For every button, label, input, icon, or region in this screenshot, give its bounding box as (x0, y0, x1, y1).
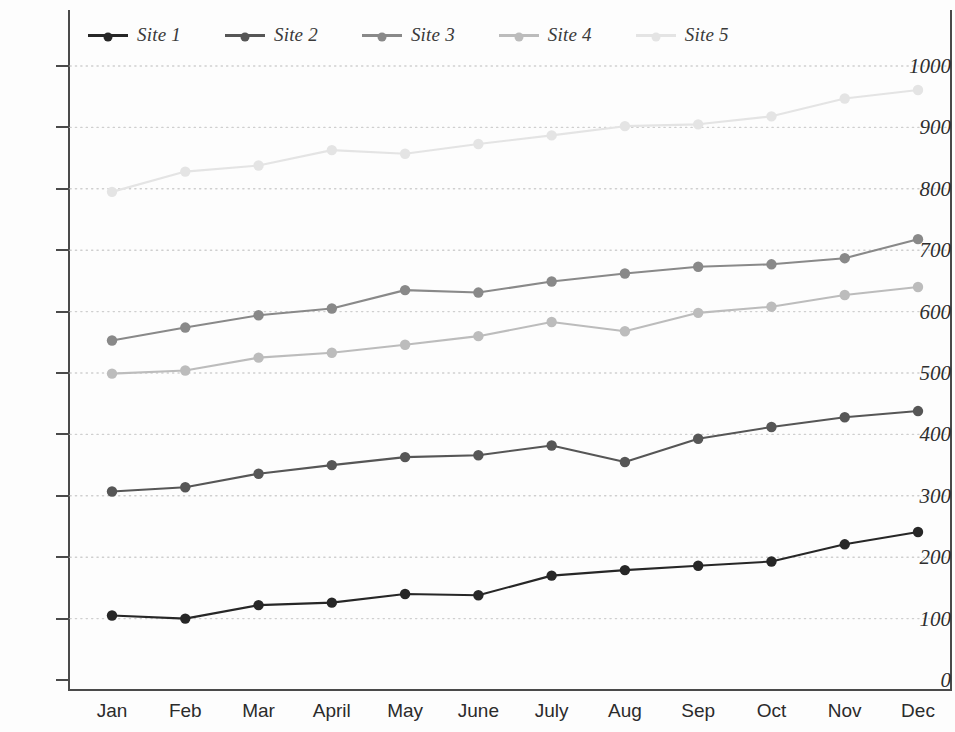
series-line (112, 287, 918, 374)
data-point-marker[interactable] (766, 259, 776, 269)
y-axis-tick-label: 900 (893, 115, 955, 140)
data-point-marker[interactable] (400, 149, 410, 159)
data-point-marker[interactable] (546, 440, 556, 450)
y-axis-tick-mark (56, 126, 68, 128)
data-point-marker[interactable] (840, 290, 850, 300)
x-axis-tick-label: Aug (608, 700, 642, 722)
data-point-marker[interactable] (546, 276, 556, 286)
data-point-marker[interactable] (253, 600, 263, 610)
y-axis-tick-label: 800 (893, 176, 955, 201)
series-line (112, 90, 918, 192)
data-point-marker[interactable] (840, 539, 850, 549)
y-axis-tick-label: 0 (893, 668, 955, 693)
data-point-marker[interactable] (253, 352, 263, 362)
y-axis-tick-mark (56, 65, 68, 67)
data-point-marker[interactable] (766, 111, 776, 121)
x-axis-tick-label: June (458, 700, 499, 722)
data-point-marker[interactable] (253, 310, 263, 320)
data-point-marker[interactable] (766, 301, 776, 311)
data-point-marker[interactable] (546, 570, 556, 580)
series-site-5 (107, 85, 923, 197)
data-point-marker[interactable] (400, 589, 410, 599)
data-point-marker[interactable] (400, 340, 410, 350)
series-layer (68, 10, 952, 691)
y-axis-tick-label: 400 (893, 422, 955, 447)
series-site-1 (107, 527, 923, 624)
data-point-marker[interactable] (327, 303, 337, 313)
series-line (112, 411, 918, 491)
data-point-marker[interactable] (253, 469, 263, 479)
data-point-marker[interactable] (327, 597, 337, 607)
data-point-marker[interactable] (473, 331, 483, 341)
x-axis-tick-label: Oct (757, 700, 787, 722)
series-site-4 (107, 282, 923, 379)
data-point-marker[interactable] (400, 452, 410, 462)
data-point-marker[interactable] (473, 590, 483, 600)
x-axis-tick-label: Feb (169, 700, 202, 722)
data-point-marker[interactable] (620, 565, 630, 575)
y-axis-tick-mark (56, 311, 68, 313)
data-point-marker[interactable] (840, 93, 850, 103)
data-point-marker[interactable] (913, 406, 923, 416)
data-point-marker[interactable] (180, 365, 190, 375)
x-axis-tick-label: Nov (828, 700, 862, 722)
y-axis-tick-mark (56, 372, 68, 374)
data-point-marker[interactable] (180, 166, 190, 176)
x-axis-tick-label: Sep (681, 700, 715, 722)
data-point-marker[interactable] (473, 139, 483, 149)
data-point-marker[interactable] (107, 335, 117, 345)
data-point-marker[interactable] (253, 160, 263, 170)
data-point-marker[interactable] (546, 317, 556, 327)
data-point-marker[interactable] (400, 285, 410, 295)
data-point-marker[interactable] (693, 119, 703, 129)
data-point-marker[interactable] (180, 322, 190, 332)
x-axis-tick-label: July (535, 700, 569, 722)
data-point-marker[interactable] (180, 613, 190, 623)
data-point-marker[interactable] (180, 482, 190, 492)
y-axis-tick-label: 1000 (893, 54, 955, 79)
y-axis-tick-mark (56, 556, 68, 558)
y-axis-tick-label: 700 (893, 238, 955, 263)
plot-area (68, 10, 952, 691)
data-point-marker[interactable] (620, 457, 630, 467)
data-point-marker[interactable] (107, 187, 117, 197)
data-point-marker[interactable] (327, 348, 337, 358)
data-point-marker[interactable] (327, 460, 337, 470)
x-axis-tick-label: April (313, 700, 351, 722)
data-point-marker[interactable] (693, 308, 703, 318)
data-point-marker[interactable] (840, 253, 850, 263)
data-point-marker[interactable] (107, 368, 117, 378)
data-point-marker[interactable] (766, 556, 776, 566)
y-axis-tick-mark (56, 495, 68, 497)
x-axis-tick-label: Dec (901, 700, 935, 722)
y-axis-tick-mark (56, 618, 68, 620)
data-point-marker[interactable] (620, 326, 630, 336)
series-site-2 (107, 406, 923, 497)
data-point-marker[interactable] (766, 422, 776, 432)
data-point-marker[interactable] (546, 130, 556, 140)
y-axis-tick-mark (56, 433, 68, 435)
data-point-marker[interactable] (473, 450, 483, 460)
data-point-marker[interactable] (693, 434, 703, 444)
data-point-marker[interactable] (107, 610, 117, 620)
data-point-marker[interactable] (913, 527, 923, 537)
data-point-marker[interactable] (327, 145, 337, 155)
data-point-marker[interactable] (913, 282, 923, 292)
y-axis-tick-label: 600 (893, 299, 955, 324)
data-point-marker[interactable] (473, 287, 483, 297)
data-point-marker[interactable] (913, 85, 923, 95)
data-point-marker[interactable] (620, 121, 630, 131)
data-point-marker[interactable] (840, 412, 850, 422)
y-axis-tick-label: 500 (893, 361, 955, 386)
y-axis-tick-label: 300 (893, 483, 955, 508)
x-axis-tick-label: Mar (242, 700, 275, 722)
y-axis-tick-mark (56, 679, 68, 681)
data-point-marker[interactable] (693, 262, 703, 272)
line-chart: Site 1Site 2Site 3Site 4Site 5 010020030… (0, 0, 955, 732)
data-point-marker[interactable] (693, 561, 703, 571)
data-point-marker[interactable] (107, 486, 117, 496)
data-point-marker[interactable] (620, 268, 630, 278)
series-line (112, 239, 918, 340)
y-axis-tick-label: 100 (893, 606, 955, 631)
y-axis-tick-mark (56, 188, 68, 190)
